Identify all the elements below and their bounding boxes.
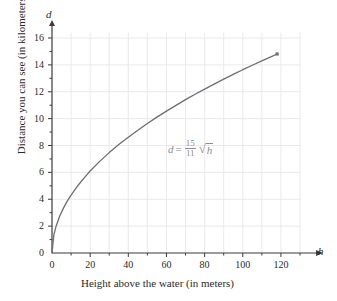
y-tick-label: 16 [26, 33, 44, 43]
y-tick-label: 12 [26, 87, 44, 97]
y-tick-label: 14 [26, 60, 44, 70]
data-curve [52, 52, 279, 253]
y-axis-title: Distance you can see (in kilometers) [15, 0, 27, 174]
y-axis-variable-label: d [46, 8, 52, 20]
curve-path [52, 54, 277, 253]
x-axis-variable-label: h [318, 245, 324, 257]
y-tick-label: 0 [26, 248, 44, 258]
x-tick-label: 80 [200, 260, 210, 270]
curve-endpoint-marker [276, 52, 279, 55]
curve-equation-annotation: d = 15 11 √ h [168, 139, 213, 159]
equation-numerator: 15 [185, 139, 196, 148]
equation-radical: √ h [199, 142, 214, 156]
equation-lhs: d [168, 143, 174, 155]
y-tick-label: 2 [26, 221, 44, 231]
x-tick-label: 20 [85, 260, 95, 270]
x-tick-label: 120 [273, 260, 288, 270]
x-tick-label: 40 [123, 260, 133, 270]
x-tick-label: 100 [235, 260, 250, 270]
radical-sign-icon: √ [199, 142, 206, 155]
equation-radicand: h [206, 143, 214, 156]
y-tick-label: 6 [26, 167, 44, 177]
equation-equals: = [176, 143, 182, 155]
equation-fraction: 15 11 [185, 139, 196, 159]
x-axis-title: Height above the water (in meters) [0, 277, 315, 289]
equation-denominator: 11 [185, 148, 196, 158]
x-tick-label: 0 [50, 260, 55, 270]
x-tick-label: 60 [161, 260, 171, 270]
y-axis-arrowhead [49, 20, 55, 26]
y-tick-label: 10 [26, 114, 44, 124]
y-tick-label: 8 [26, 141, 44, 151]
y-tick-label: 4 [26, 194, 44, 204]
chart-figure: 020406080100120 0246810121416 Height abo… [0, 0, 337, 301]
